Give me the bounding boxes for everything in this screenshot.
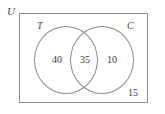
venn-diagram-figure: U T C 40 35 10 15	[0, 0, 165, 114]
set-label-c: C	[127, 21, 134, 31]
set-label-t: T	[37, 21, 43, 31]
region-value-c-only: 10	[101, 55, 123, 65]
region-value-outside: 15	[122, 88, 144, 98]
region-value-t-only: 40	[46, 55, 68, 65]
universal-set-label: U	[7, 6, 15, 17]
region-value-intersection: 35	[74, 55, 96, 65]
